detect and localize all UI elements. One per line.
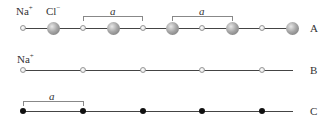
lattice-constant-label: a	[110, 6, 116, 17]
row-label-b: B	[310, 65, 317, 76]
na-ion	[199, 67, 205, 73]
lattice-point	[140, 108, 146, 114]
na-ion-label: Na+	[16, 5, 33, 17]
cl-ion	[286, 22, 299, 35]
na-ion	[20, 67, 26, 73]
chain-line	[23, 28, 295, 29]
na-ion-label: Na+	[17, 53, 34, 65]
na-ion	[140, 25, 146, 31]
na-ion	[259, 25, 265, 31]
lattice-point	[20, 108, 26, 114]
row-label-a: A	[310, 23, 318, 34]
cl-ion	[226, 22, 239, 35]
na-ion	[259, 67, 265, 73]
cl-ion	[47, 22, 60, 35]
lattice-constant-label: a	[199, 6, 205, 17]
na-ion	[140, 67, 146, 73]
lattice-point	[259, 108, 265, 114]
na-ion	[20, 25, 26, 31]
na-ion	[199, 25, 205, 31]
lattice-point	[80, 108, 86, 114]
na-ion	[80, 67, 86, 73]
cl-ion	[166, 22, 179, 35]
cl-ion-label: Cl−	[46, 5, 60, 17]
lattice-constant-label: a	[49, 91, 55, 102]
na-ion	[80, 25, 86, 31]
chain-line	[23, 70, 293, 71]
row-label-c: C	[310, 106, 317, 117]
lattice-point	[199, 108, 205, 114]
cl-ion	[107, 22, 120, 35]
chain-line	[23, 111, 293, 112]
